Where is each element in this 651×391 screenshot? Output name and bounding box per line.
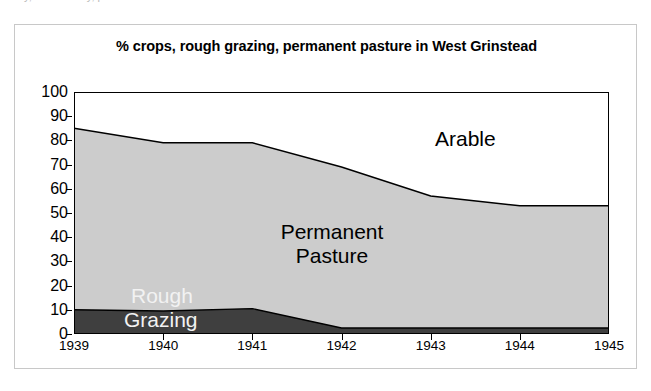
x-axis-tick-label: 1939 xyxy=(39,338,109,353)
x-axis-tick-labels: 1939194019411942194319441945 xyxy=(74,338,609,362)
cropped-text-line: y, ... to be ... y, pasture increased. xyxy=(24,0,188,2)
series-label-grazing: Grazing xyxy=(124,308,198,332)
y-axis-tick-mark xyxy=(66,213,72,214)
y-axis-tick-mark xyxy=(66,334,72,335)
x-axis-tick-label: 1940 xyxy=(128,338,198,353)
plot-area: Arable Permanent Pasture Rough Grazing xyxy=(74,92,609,334)
series-label-permanent-pasture-line2: Pasture xyxy=(272,244,392,268)
x-axis-tick-label: 1944 xyxy=(485,338,555,353)
y-axis-tick-mark xyxy=(66,140,72,141)
y-axis-tick-mark xyxy=(66,116,72,117)
y-axis-tick-mark xyxy=(66,189,72,190)
y-axis-tick-mark xyxy=(66,261,72,262)
y-axis-tick-mark xyxy=(66,165,72,166)
series-label-permanent-pasture: Permanent Pasture xyxy=(272,220,392,267)
y-axis-tick-mark xyxy=(66,310,72,311)
x-axis-tick-label: 1942 xyxy=(307,338,377,353)
cropped-text-above-chart: y, ... to be ... y, pasture increased. xyxy=(0,0,651,13)
x-axis-tick-label: 1943 xyxy=(396,338,466,353)
y-axis-tick-mark xyxy=(66,237,72,238)
series-label-permanent-pasture-line1: Permanent xyxy=(272,220,392,244)
y-axis-tick-marks xyxy=(15,92,74,334)
chart-frame: % crops, rough grazing, permanent pastur… xyxy=(14,24,637,369)
series-label-arable: Arable xyxy=(435,127,496,151)
series-label-rough: Rough xyxy=(131,284,193,308)
chart-title: % crops, rough grazing, permanent pastur… xyxy=(15,38,638,54)
x-axis-tick-label: 1945 xyxy=(574,338,644,353)
x-axis-tick-label: 1941 xyxy=(217,338,287,353)
y-axis-tick-mark xyxy=(66,286,72,287)
